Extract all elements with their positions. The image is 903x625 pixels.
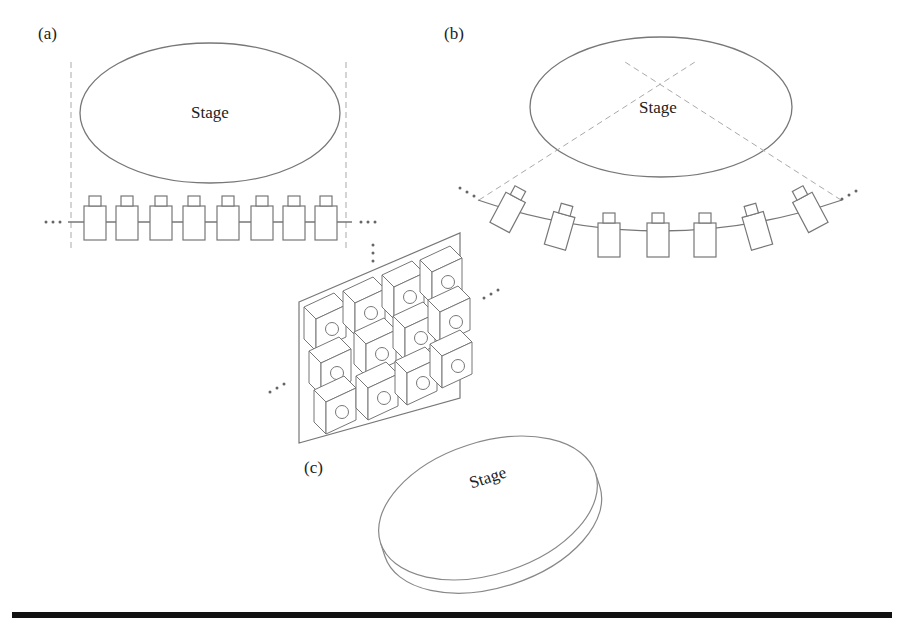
camera-icon [116,196,138,240]
panel-a: Stage [45,43,377,248]
camera-icon [598,213,620,257]
camera-icon [647,213,669,257]
stage-label-b: Stage [639,98,677,117]
panel-c: Stage [269,233,621,619]
camera-icon [315,196,337,240]
camera-grid-c [304,246,472,434]
camera-icon [283,196,305,240]
field-line-right [625,62,841,200]
stage-disk-c [360,410,620,619]
panel-b: Stage [459,37,858,257]
camera-icon [788,183,828,232]
camera-icon [694,213,716,257]
bottom-rule [12,612,892,618]
camera-icon [84,196,106,240]
camera-icon [739,202,772,250]
camera-icon [490,183,530,232]
camera-icon [183,196,205,240]
camera-icon [251,196,273,240]
field-line-left [479,62,695,200]
stage-label-a: Stage [191,103,229,122]
camera-icon [217,196,239,240]
camera-icon [150,196,172,240]
diagram-canvas: Stage Stage [0,0,903,625]
camera-row-a [84,196,337,240]
camera-icon [544,202,577,250]
camera-arc-b [490,183,828,257]
